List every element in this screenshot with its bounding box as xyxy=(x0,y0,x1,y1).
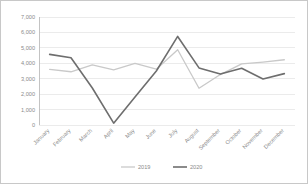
legend-label-2020: 2020 xyxy=(190,164,202,170)
y-tick-label: 4,000 xyxy=(21,60,35,66)
x-tick-label: June xyxy=(144,127,157,140)
gridlines xyxy=(39,17,295,125)
y-tick-label: 7,000 xyxy=(21,14,35,20)
legend-label-2019: 2019 xyxy=(138,164,150,170)
x-tick-label: April xyxy=(102,127,114,139)
x-tick-label: October xyxy=(224,127,242,145)
x-tick-label: December xyxy=(263,127,286,150)
chart-legend: 20192020 xyxy=(121,164,202,170)
x-tick-label: July xyxy=(167,127,178,138)
x-tick-label: February xyxy=(52,127,72,147)
x-tick-label: September xyxy=(197,127,221,151)
y-tick-label: 0 xyxy=(32,122,35,128)
y-tick-labels: 01,0002,0003,0004,0005,0006,0007,000 xyxy=(21,14,35,128)
y-tick-label: 3,000 xyxy=(21,76,35,82)
chart-container: 01,0002,0003,0004,0005,0006,0007,000 Jan… xyxy=(0,0,308,184)
y-tick-label: 5,000 xyxy=(21,45,35,51)
line-chart: 01,0002,0003,0004,0005,0006,0007,000 Jan… xyxy=(1,1,308,184)
x-tick-label: March xyxy=(78,127,93,142)
x-tick-label: August xyxy=(183,127,200,144)
x-tick-label: May xyxy=(124,127,136,139)
series-line-2019 xyxy=(50,50,285,89)
series-line-2020 xyxy=(50,36,285,123)
y-tick-label: 6,000 xyxy=(21,29,35,35)
x-tick-label: January xyxy=(32,127,50,145)
y-tick-label: 1,000 xyxy=(21,107,35,113)
data-series xyxy=(50,36,285,123)
y-tick-label: 2,000 xyxy=(21,91,35,97)
x-tick-labels: JanuaryFebruaryMarchAprilMayJuneJulyAugu… xyxy=(32,127,285,151)
x-tick-label: November xyxy=(241,127,264,150)
